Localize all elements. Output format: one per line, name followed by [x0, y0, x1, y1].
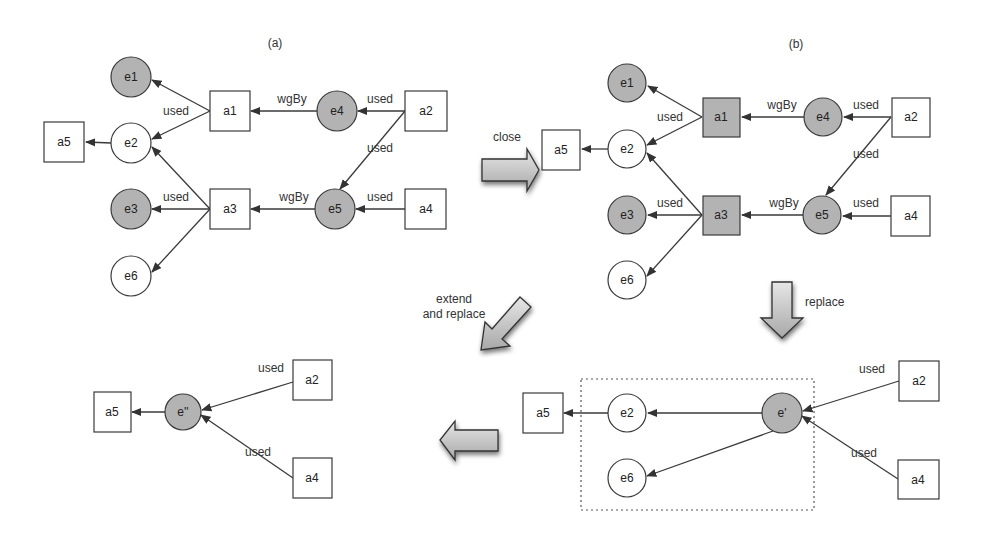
down-left-arrow-icon — [481, 297, 531, 350]
node-e1: e1 — [608, 64, 646, 102]
svg-text:e5: e5 — [815, 208, 829, 222]
svg-text:a1: a1 — [714, 110, 728, 124]
node-e5: e5 — [803, 196, 841, 234]
node-e6: e6 — [608, 261, 646, 299]
edge-eprime-e6 — [647, 431, 773, 476]
svg-text:a5: a5 — [536, 406, 550, 420]
edge-label: used — [853, 98, 879, 112]
edge-label: used — [657, 196, 683, 210]
svg-text:a1: a1 — [223, 104, 237, 118]
svg-text:a3: a3 — [223, 202, 237, 216]
svg-text:e4: e4 — [330, 104, 344, 118]
node-e1: e1 — [111, 57, 151, 97]
edge-label: wgBy — [276, 92, 306, 106]
svg-text:a4: a4 — [904, 209, 918, 223]
edge-a2-eprime — [803, 381, 899, 411]
node-e4: e4 — [317, 91, 357, 131]
panel-a-title: (a) — [268, 36, 283, 50]
svg-text:a2: a2 — [419, 104, 433, 118]
node-a2: a2 — [293, 360, 332, 400]
edge-label: wgBy — [768, 196, 798, 210]
node-a5: a5 — [94, 392, 131, 432]
svg-text:a4: a4 — [305, 471, 319, 485]
svg-text:a2: a2 — [305, 373, 319, 387]
svg-text:e6: e6 — [620, 471, 634, 485]
edge-label: used — [859, 362, 885, 376]
left-arrow-icon — [440, 421, 498, 460]
panel-b: (b) used wgBy used used used wgBy used e… — [542, 37, 930, 299]
svg-text:e6: e6 — [124, 269, 138, 283]
edge-label: used — [853, 196, 879, 210]
node-a5: a5 — [542, 130, 580, 170]
node-a3: a3 — [210, 189, 250, 229]
edge-a2-edoubleprime — [202, 382, 293, 410]
edge-a3-e6 — [152, 209, 210, 272]
node-e5: e5 — [315, 189, 355, 229]
node-e2: e2 — [608, 130, 646, 168]
edge-label: used — [853, 147, 879, 161]
edge-e2-a5 — [86, 142, 111, 143]
node-a5: a5 — [523, 393, 563, 433]
edge-label: used — [851, 446, 877, 460]
svg-text:e1: e1 — [620, 76, 634, 90]
svg-text:e3: e3 — [124, 202, 138, 216]
transition-label-replace: replace — [805, 295, 845, 309]
transition-replace: replace — [761, 282, 845, 338]
svg-text:a5: a5 — [57, 135, 71, 149]
node-a2: a2 — [405, 91, 447, 131]
node-e6: e6 — [608, 459, 646, 497]
node-a1: a1 — [210, 91, 250, 131]
panel-extended: used used a5 e'' a2 a4 — [94, 360, 332, 498]
panel-b-title: (b) — [789, 37, 804, 51]
svg-text:e': e' — [778, 406, 787, 420]
edge-label: used — [367, 190, 393, 204]
right-arrow-icon — [482, 149, 539, 191]
node-e3: e3 — [608, 196, 646, 234]
svg-text:e2: e2 — [620, 406, 634, 420]
node-a2: a2 — [892, 98, 930, 137]
edge-label: wgBy — [766, 98, 796, 112]
svg-text:a2: a2 — [904, 110, 918, 124]
edge-label: used — [657, 110, 683, 124]
node-e2: e2 — [608, 394, 646, 432]
transition-label-extend: extend — [436, 292, 472, 306]
down-arrow-icon — [761, 282, 803, 338]
svg-text:e1: e1 — [124, 70, 138, 84]
svg-text:e'': e'' — [177, 405, 188, 419]
node-eprime: e' — [762, 393, 802, 433]
edge-label: used — [367, 141, 393, 155]
node-e6: e6 — [111, 256, 151, 296]
transition-label-close: close — [493, 130, 521, 144]
svg-text:a5: a5 — [105, 405, 119, 419]
edge-label: wgBy — [278, 190, 308, 204]
node-a4: a4 — [898, 460, 939, 499]
node-e2: e2 — [111, 123, 151, 163]
panel-replaced: used used a5 e2 e6 e' a2 a4 — [523, 361, 939, 510]
svg-text:e2: e2 — [620, 142, 634, 156]
transition-extend-and-replace: extend and replace — [423, 292, 531, 350]
node-e3: e3 — [111, 189, 151, 229]
node-edoubleprime: e'' — [165, 394, 201, 430]
transition-left — [440, 421, 498, 460]
edge-a3-e6 — [647, 215, 702, 276]
node-a4: a4 — [405, 189, 446, 229]
edge-label: used — [163, 104, 189, 118]
svg-text:a4: a4 — [419, 202, 433, 216]
svg-text:a5: a5 — [554, 143, 568, 157]
svg-text:e5: e5 — [328, 202, 342, 216]
svg-text:a2: a2 — [912, 374, 926, 388]
node-a4: a4 — [293, 458, 332, 498]
edge-label: used — [163, 190, 189, 204]
svg-text:e2: e2 — [124, 136, 138, 150]
node-a3: a3 — [703, 196, 740, 235]
edge-label: used — [245, 445, 271, 459]
svg-text:e6: e6 — [620, 273, 634, 287]
svg-text:a4: a4 — [911, 473, 925, 487]
node-a1: a1 — [703, 98, 740, 137]
edge-label: used — [367, 92, 393, 106]
svg-text:e4: e4 — [816, 110, 830, 124]
node-e4: e4 — [804, 98, 842, 136]
node-a5: a5 — [44, 122, 84, 162]
svg-text:a3: a3 — [714, 208, 728, 222]
provenance-diagram: (a) used wgBy used used used wgBy used e… — [0, 0, 988, 540]
